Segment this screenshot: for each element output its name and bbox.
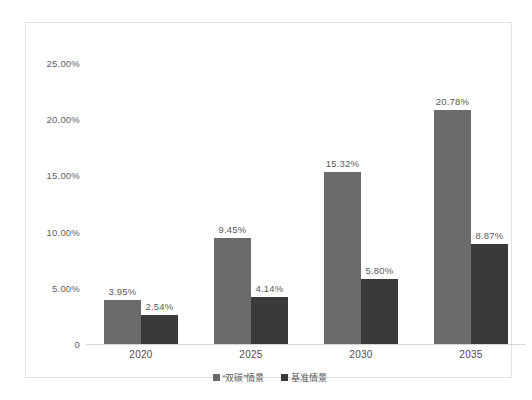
bar[interactable] xyxy=(471,244,508,344)
bar-value-label: 15.32% xyxy=(326,158,359,169)
x-axis-line xyxy=(86,344,526,345)
legend-swatch-icon xyxy=(281,374,288,381)
bar-value-label: 8.87% xyxy=(476,230,504,241)
bar-group: 15.32%5.80% xyxy=(324,63,398,344)
legend-item[interactable]: 基准情景 xyxy=(281,371,327,384)
legend-item[interactable]: “双碳”情景 xyxy=(213,371,265,384)
bar[interactable] xyxy=(251,297,288,344)
bar-value-label: 3.95% xyxy=(109,286,137,297)
bar-group: 3.95%2.54% xyxy=(104,63,178,344)
x-axis-tick-label: 2035 xyxy=(459,349,482,360)
legend-swatch-icon xyxy=(213,374,220,381)
bar-value-label: 20.78% xyxy=(436,96,469,107)
bar[interactable] xyxy=(214,238,251,344)
y-axis-tick-label: 15.00% xyxy=(47,170,80,181)
y-axis-tick-label: 10.00% xyxy=(47,226,80,237)
bar-value-label: 5.80% xyxy=(366,265,394,276)
y-axis: 25.00%20.00%15.00%10.00%5.00%0 xyxy=(26,63,80,344)
x-axis: 2020202520302035 xyxy=(86,349,526,369)
y-axis-tick-label: 20.00% xyxy=(47,114,80,125)
bar-group: 20.78%8.87% xyxy=(434,63,508,344)
chart-frame: 25.00%20.00%15.00%10.00%5.00%0 3.95%2.54… xyxy=(25,22,512,378)
y-axis-tick-label: 0 xyxy=(75,339,80,350)
plot-area: 3.95%2.54%9.45%4.14%15.32%5.80%20.78%8.8… xyxy=(86,63,526,344)
x-axis-tick-label: 2030 xyxy=(349,349,372,360)
bar[interactable] xyxy=(324,172,361,344)
chart-legend: “双碳”情景基准情景 xyxy=(26,371,513,384)
bar[interactable] xyxy=(141,315,178,344)
y-axis-tick-label: 25.00% xyxy=(47,58,80,69)
legend-label: “双碳”情景 xyxy=(223,371,265,384)
bar[interactable] xyxy=(434,110,471,344)
legend-label: 基准情景 xyxy=(291,371,327,384)
bar-value-label: 9.45% xyxy=(219,224,247,235)
bar-value-label: 4.14% xyxy=(256,283,284,294)
bar[interactable] xyxy=(361,279,398,344)
bar[interactable] xyxy=(104,300,141,344)
y-axis-tick-label: 5.00% xyxy=(52,282,80,293)
bar-value-label: 2.54% xyxy=(146,301,174,312)
bar-group: 9.45%4.14% xyxy=(214,63,288,344)
x-axis-tick-label: 2025 xyxy=(239,349,262,360)
x-axis-tick-label: 2020 xyxy=(129,349,152,360)
